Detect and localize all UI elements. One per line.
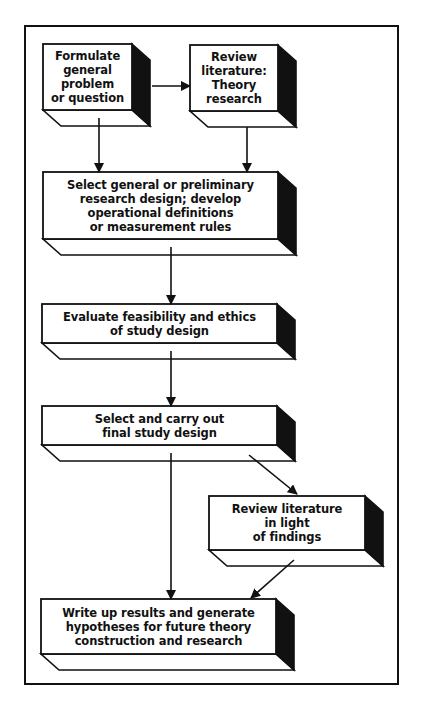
node-label-evaluate: Evaluate feasibility and ethics of study… <box>42 304 277 343</box>
box-bottom-face <box>42 445 295 461</box>
box-bottom-face <box>42 343 295 359</box>
box-bottom-face <box>43 239 296 255</box>
node-label-select-design: Select general or preliminary research d… <box>43 172 278 239</box>
box-bottom-face <box>209 550 383 566</box>
node-label-formulate: Formulate general problem or question <box>43 44 132 110</box>
node-label-write-up: Write up results and generate hypotheses… <box>41 599 276 654</box>
box-bottom-face <box>41 654 294 670</box>
node-label-carry-out: Select and carry out final study design <box>42 406 277 445</box>
research-flowchart: Formulate general problem or questionRev… <box>0 0 422 703</box>
node-label-review-theory: Review literature: Theory research <box>190 45 278 111</box>
node-label-review-findings: Review literature in light of findings <box>209 496 365 550</box>
